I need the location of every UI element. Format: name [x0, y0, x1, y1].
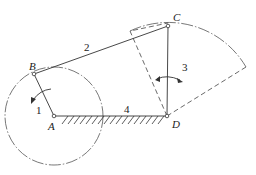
- ground-link-4: [54, 116, 167, 124]
- extreme-position-line-right: [167, 67, 246, 116]
- four-bar-linkage-diagram: B A C D 1 2 3 4: [0, 0, 256, 175]
- label-link-3: 3: [182, 61, 188, 73]
- crank-rotation-arrow-icon: [31, 89, 51, 104]
- joint-A: [52, 114, 56, 118]
- coupler-link-2: [34, 26, 168, 74]
- rocker-link-3: [167, 26, 168, 116]
- rocker-oscillation-arrow-icon: [155, 76, 183, 83]
- extreme-position-line-left: [130, 23, 168, 116]
- ground-hatching: [62, 116, 164, 124]
- joint-D: [165, 114, 169, 118]
- label-link-2: 2: [84, 41, 90, 53]
- label-link-1: 1: [36, 104, 42, 116]
- joint-C: [166, 24, 170, 28]
- label-link-4: 4: [124, 103, 130, 115]
- label-point-B: B: [29, 60, 36, 72]
- rocker-path-arc: [130, 22, 246, 67]
- joint-B: [32, 72, 36, 76]
- label-point-C: C: [173, 11, 181, 23]
- label-point-D: D: [171, 118, 180, 130]
- label-point-A: A: [47, 120, 55, 132]
